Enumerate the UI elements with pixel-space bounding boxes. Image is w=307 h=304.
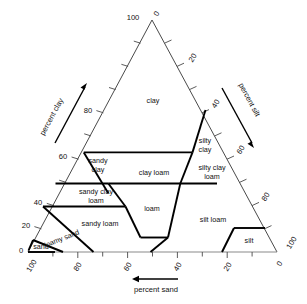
right-tick-label-60: 60 xyxy=(235,144,247,156)
label-sandy-clay-line1: sandy xyxy=(88,156,108,165)
label-sandy-clay-loam-line1: sandy clay xyxy=(79,187,113,196)
right-tick-label-40: 40 xyxy=(210,98,222,110)
left-tick-label-60: 60 xyxy=(59,152,67,161)
percent-silt-arrow-head xyxy=(248,142,255,149)
texture-class-boundaries xyxy=(28,110,265,252)
right-tick-10-minor xyxy=(165,40,172,43)
right-tick-60 xyxy=(227,156,234,159)
left-tick-label-40: 40 xyxy=(34,198,42,207)
left-tick-60-minor xyxy=(72,157,79,159)
left-tick-70-minor xyxy=(84,134,91,136)
label-silt: silt xyxy=(245,236,254,245)
percent-clay-axis: percent clay xyxy=(38,83,87,143)
label-sandy-clay-line2: clay xyxy=(92,165,105,174)
bottom-tick-label-60: 60 xyxy=(122,261,134,273)
left-tick-80 xyxy=(96,111,103,113)
bottom-tick-label-20: 20 xyxy=(222,261,234,273)
right-tick-30-minor xyxy=(190,86,197,89)
right-tick-label-80: 80 xyxy=(260,191,272,203)
right-axis-ticks xyxy=(165,40,272,229)
label-silt-loam: silt loam xyxy=(200,215,226,224)
label-silty-clay-line2: clay xyxy=(199,145,212,154)
left-tick-30-minor xyxy=(34,227,41,229)
label-clay: clay xyxy=(147,96,160,105)
percent-sand-title: percent sand xyxy=(134,285,178,294)
left-tick-label-80: 80 xyxy=(84,106,92,115)
boundary-silt-left xyxy=(222,228,234,252)
percent-sand-arrow-head xyxy=(132,276,139,282)
label-sandy-clay-loam-line2: loam xyxy=(88,196,104,205)
left-tick-labels: 80 60 40 20 xyxy=(22,106,92,230)
apex-silt-0-label: 0 xyxy=(152,10,162,18)
right-tick-90-minor xyxy=(265,226,272,229)
percent-sand-axis: percent sand xyxy=(132,276,178,294)
corner-sand-0-label: 0 xyxy=(275,260,285,268)
boundary-loam-siltloam xyxy=(168,184,180,238)
label-silty-clay-line1: silty xyxy=(199,136,212,145)
bottom-axis-ticks xyxy=(53,252,252,258)
right-tick-50-minor xyxy=(215,133,222,136)
left-tick-40 xyxy=(47,203,54,205)
corner-clay-0-label: 0 xyxy=(19,246,23,255)
right-tick-label-20: 20 xyxy=(187,52,199,64)
diagram-canvas: 100 0 0 100 100 0 80 60 40 20 20 40 60 8… xyxy=(0,0,307,304)
soil-texture-triangle-diagram: 100 0 0 100 100 0 80 60 40 20 20 40 60 8… xyxy=(0,0,307,304)
percent-silt-axis: percent silt xyxy=(222,81,262,148)
left-tick-50-minor xyxy=(59,180,66,182)
label-loam: loam xyxy=(144,204,160,213)
apex-clay-100-label: 100 xyxy=(127,13,140,22)
label-clay-loam: clay loam xyxy=(139,168,169,177)
percent-clay-arrow-line xyxy=(55,87,85,143)
right-tick-20 xyxy=(177,63,184,66)
corner-sand-100-label: 100 xyxy=(24,258,38,274)
bottom-tick-labels: 80 60 40 20 xyxy=(72,261,234,273)
corner-silt-100-label: 100 xyxy=(284,235,298,251)
bottom-tick-label-80: 80 xyxy=(72,261,84,273)
left-tick-85-minor xyxy=(109,88,116,90)
label-sand: sand xyxy=(33,242,49,251)
label-sandy-loam: sandy loam xyxy=(82,219,119,228)
boundary-loam-left xyxy=(126,207,141,238)
right-tick-80 xyxy=(252,202,259,205)
left-tick-label-20: 20 xyxy=(22,221,30,230)
label-silty-clay-loam-line2: loam xyxy=(204,172,220,181)
boundary-clayloam-siltyclayloam xyxy=(180,152,192,183)
right-tick-70-minor xyxy=(240,179,247,182)
left-tick-90-minor xyxy=(121,64,128,66)
bottom-tick-label-40: 40 xyxy=(172,261,184,273)
percent-silt-title: percent silt xyxy=(237,81,263,118)
boundary-loam-right-lower xyxy=(151,238,169,253)
left-tick-95-minor xyxy=(134,41,141,43)
triangle-outline xyxy=(28,20,277,252)
label-silty-clay-loam-line1: silty clay xyxy=(198,163,226,172)
percent-clay-arrow-head xyxy=(81,83,88,90)
